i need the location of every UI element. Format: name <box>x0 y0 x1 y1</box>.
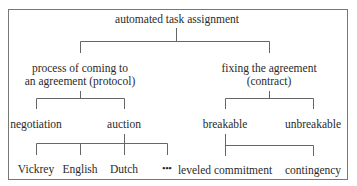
english-node: English <box>62 163 97 176</box>
protocol-node-line1: process of coming to <box>32 62 128 75</box>
more-ellipsis-icon: ••• <box>162 162 171 175</box>
contingency-node: contingency <box>285 164 341 177</box>
tree-connectors <box>0 0 357 186</box>
vickrey-node: Vickrey <box>18 163 54 176</box>
negotiation-node: negotiation <box>10 118 62 131</box>
leveled-commitment-node: leveled commitment <box>178 164 272 177</box>
protocol-node-line2: an agreement (protocol) <box>25 75 135 88</box>
unbreakable-node: unbreakable <box>285 118 341 131</box>
auction-node: auction <box>107 118 141 131</box>
contract-node-line1: fixing the agreement <box>221 62 316 75</box>
contract-node-line2: (contract) <box>247 75 292 88</box>
breakable-node: breakable <box>203 118 248 131</box>
dutch-node: Dutch <box>110 163 138 176</box>
root-node: automated task assignment <box>115 13 239 26</box>
